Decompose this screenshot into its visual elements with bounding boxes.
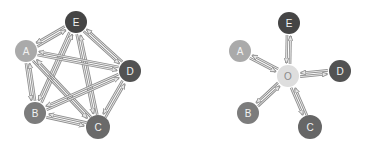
node-e: E [278, 12, 300, 34]
node-label: D [336, 66, 343, 77]
edge-arrow-b-to-o [258, 86, 280, 106]
node-b: B [24, 102, 46, 124]
edge-arrow-a-to-d [37, 55, 116, 70]
node-label: A [237, 46, 244, 57]
node-d: D [119, 60, 141, 82]
node-label: B [245, 108, 252, 119]
node-e: E [65, 11, 87, 33]
edge-arrow-o-to-b [256, 83, 278, 103]
node-label: C [94, 122, 101, 133]
hub-star-nodes: EAODBC [229, 12, 351, 139]
node-label: C [306, 122, 313, 133]
node-label: E [286, 18, 293, 29]
node-label: B [32, 108, 39, 119]
node-label: O [284, 71, 292, 82]
node-o: O [277, 65, 299, 87]
edge-arrow-d-to-c [103, 81, 122, 114]
node-label: D [126, 66, 133, 77]
node-c: C [86, 115, 110, 139]
edge-arrow-c-to-d [106, 84, 125, 117]
node-b: B [237, 102, 259, 124]
edge-arrow-c-to-e [81, 35, 98, 115]
network-diagram-canvas: EADBC EAODBC [0, 0, 369, 150]
edge-arrow-d-to-b [46, 74, 118, 106]
edge-arrow-a-to-e [37, 30, 65, 46]
node-label: E [73, 17, 80, 28]
edge-arrow-e-to-c [77, 34, 94, 114]
edge-arrow-e-to-d [84, 31, 119, 63]
node-c: C [298, 115, 322, 139]
edge-arrow-e-to-a [36, 26, 64, 42]
node-a: A [15, 40, 37, 62]
edge-arrow-e-to-o [286, 35, 287, 63]
edge-arrow-d-to-e [87, 29, 122, 61]
edge-arrow-o-to-e [290, 36, 291, 64]
node-d: D [329, 60, 351, 82]
node-a: A [229, 40, 251, 62]
node-label: A [23, 46, 30, 57]
